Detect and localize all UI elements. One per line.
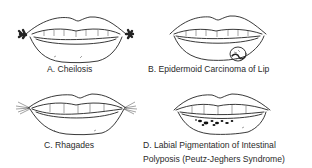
caption-d-line1: D. Labial Pigmentation of Intestinal [143,140,276,151]
caption-a: A. Cheilosis [47,64,92,75]
lips-carcinoma-illustration [166,8,270,64]
caption-b: B. Epidermoid Carcinoma of Lip [148,64,269,75]
lips-rhagades-illustration [14,92,138,138]
lips-cheilosis-illustration [14,10,138,66]
caption-d-line2: Polyposis (Peutz-Jeghers Syndrome) [143,154,285,165]
caption-c: C. Rhagades [44,140,94,151]
lips-pigmentation-illustration [170,92,274,138]
